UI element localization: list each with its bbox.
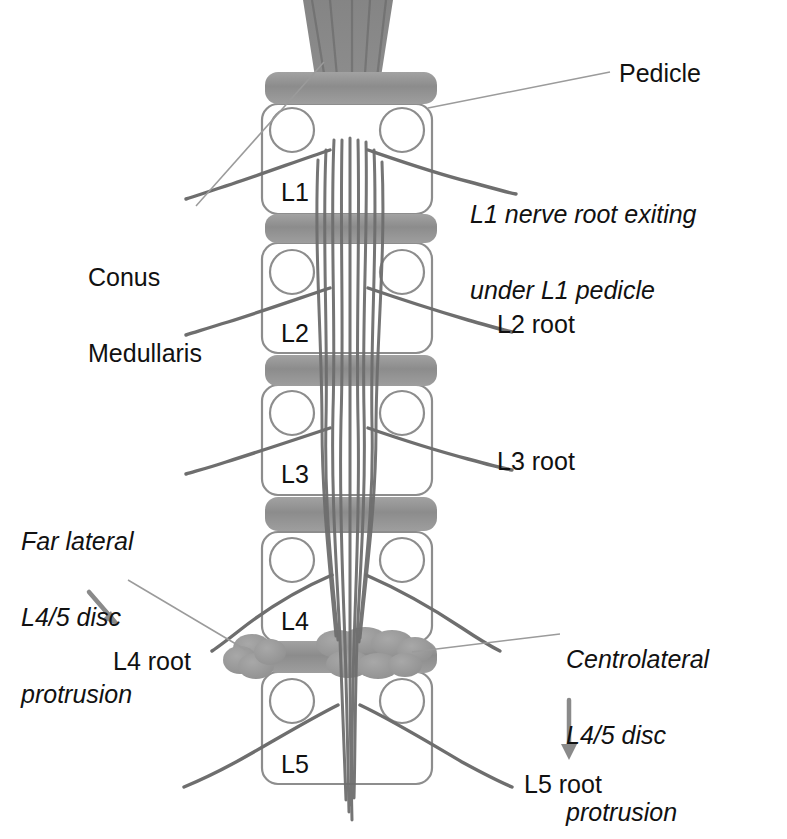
callout-conus-line2: Medullaris [88,337,202,371]
root-label-l3: L3 root [497,445,575,478]
callout-conus-line1: Conus [88,261,202,295]
callout-far-lateral-line2: L4/5 disc [21,601,134,635]
pedicle-L4-right [380,538,424,582]
pedicle-L5-left [270,679,314,723]
vertebra-label-L3: L3 [281,458,309,491]
callout-pedicle: Pedicle [619,57,701,90]
callout-centrolateral: Centrolateral L4/5 disc protrusion [566,600,709,839]
callout-far-lateral: Far lateral L4/5 disc protrusion [21,482,134,754]
leader-centrolateral [412,634,560,652]
pedicle-L5-right [380,679,424,723]
vertebra-label-L2: L2 [281,317,309,350]
vertebra-label-L5: L5 [281,748,309,781]
pedicle-L3-left [270,391,314,435]
leader-pedicle [428,72,610,108]
callout-far-lateral-line1: Far lateral [21,525,134,559]
vertebra-label-L1: L1 [281,176,309,209]
leader-far-lateral [128,580,246,650]
root-label-l2: L2 root [497,308,575,341]
root-label-l4: L4 root [113,645,191,678]
pedicle-L4-left [270,538,314,582]
pedicle-L2-left [270,250,314,294]
vertebra-label-L4: L4 [281,605,309,638]
callout-centrolateral-line1: Centrolateral [566,643,709,677]
pedicle-L3-right [380,391,424,435]
callout-centrolateral-line3: protrusion [566,796,709,830]
callout-l1-nerve-root-line1: L1 nerve root exiting [470,198,697,232]
root-label-l5: L5 root [524,768,602,801]
callout-l1-nerve-root-line2: under L1 pedicle [470,274,697,308]
disc-L4-L5-with-protrusions [223,627,437,679]
callout-centrolateral-line2: L4/5 disc [566,719,709,753]
callout-conus-medullaris: Conus Medullaris [88,218,202,414]
callout-far-lateral-line3: protrusion [21,678,134,712]
pedicle-L2-right [380,250,424,294]
figure-canvas: L1 L2 L3 L4 L5 Pedicle L1 nerve root exi… [0,0,787,839]
pedicle-L1-right [380,108,424,152]
